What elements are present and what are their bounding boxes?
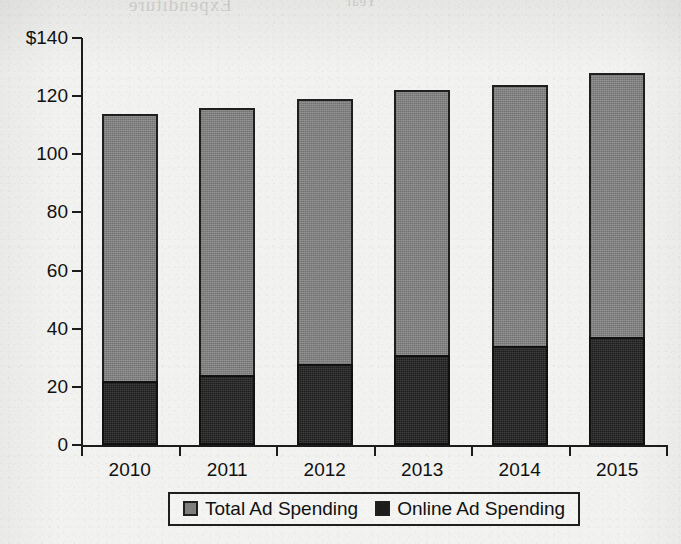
y-axis-label-slot: 40: [0, 329, 68, 330]
bar-online-ad-spending: [492, 346, 548, 445]
y-axis-label-slot: 100: [0, 154, 68, 155]
y-axis-tick-label: $140: [6, 28, 68, 47]
bar-chart-plot: 020406080100120$140 20102011201220132014…: [0, 0, 681, 544]
x-axis-tick: [569, 445, 571, 456]
legend-entry: Online Ad Spending: [375, 499, 565, 518]
legend-entry: Total Ad Spending: [183, 499, 358, 518]
y-axis-tick: [72, 37, 82, 39]
x-axis-tick: [374, 445, 376, 456]
chart-legend: Total Ad SpendingOnline Ad Spending: [168, 492, 580, 526]
y-axis-tick: [72, 211, 82, 213]
bar-online-ad-spending: [199, 375, 255, 445]
legend-swatch-total: [183, 501, 198, 516]
x-axis-tick: [471, 445, 473, 456]
y-axis-tick: [72, 386, 82, 388]
bar-online-ad-spending: [589, 337, 645, 445]
legend-label: Online Ad Spending: [397, 499, 565, 518]
bar-online-ad-spending: [297, 364, 353, 445]
x-axis-tick-label: 2010: [85, 460, 175, 479]
y-axis-tick-label: 120: [6, 86, 68, 105]
bar-online-ad-spending: [102, 381, 158, 445]
y-axis-tick-label: 20: [6, 377, 68, 396]
y-axis-tick-label: 60: [6, 261, 68, 280]
y-axis-tick: [72, 328, 82, 330]
y-axis-tick: [72, 270, 82, 272]
y-axis-label-slot: 120: [0, 96, 68, 97]
x-axis-tick-label: 2012: [280, 460, 370, 479]
x-axis-tick: [276, 445, 278, 456]
legend-label: Total Ad Spending: [205, 499, 358, 518]
y-axis-tick-label: 100: [6, 144, 68, 163]
x-axis-tick: [666, 445, 668, 456]
y-axis-tick-label: 80: [6, 202, 68, 221]
chart-page: Expenditure Year 020406080100120$140 201…: [0, 0, 681, 544]
bar-online-ad-spending: [394, 355, 450, 445]
y-axis-tick-label: 40: [6, 319, 68, 338]
x-axis-tick-label: 2013: [377, 460, 467, 479]
x-axis-tick: [81, 445, 83, 456]
y-axis-tick: [72, 153, 82, 155]
y-axis-tick-label: 0: [6, 435, 68, 454]
y-axis-tick: [72, 95, 82, 97]
x-axis-tick: [179, 445, 181, 456]
y-axis-label-slot: 20: [0, 387, 68, 388]
y-axis-label-slot: 60: [0, 271, 68, 272]
x-axis-tick-label: 2011: [182, 460, 272, 479]
y-axis-label-slot: 80: [0, 212, 68, 213]
y-axis-label-slot: $140: [0, 38, 68, 39]
y-axis-label-slot: 0: [0, 445, 68, 446]
x-axis-tick-label: 2015: [572, 460, 662, 479]
legend-swatch-online: [375, 501, 390, 516]
x-axis-tick-label: 2014: [475, 460, 565, 479]
